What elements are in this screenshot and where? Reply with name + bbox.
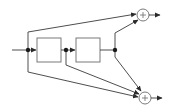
junction-output (113, 48, 117, 52)
block-2 (76, 38, 100, 62)
block-1 (37, 38, 61, 62)
wire-output-to-top-adder (115, 20, 138, 50)
junction-mid (64, 48, 68, 52)
junction-input (26, 48, 30, 52)
block-diagram (0, 0, 173, 111)
